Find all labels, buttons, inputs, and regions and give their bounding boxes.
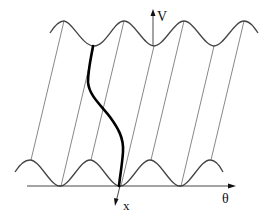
theta-axis-arrowhead-icon	[228, 184, 236, 189]
x-axis-arrowhead-icon	[114, 198, 119, 206]
diagram-canvas	[0, 0, 272, 217]
v-axis-label: V	[157, 10, 167, 24]
thick-trajectory-path	[88, 46, 123, 186]
v-axis-arrowhead-icon	[151, 9, 156, 16]
x-axis-label: x	[123, 199, 130, 212]
theta-axis-label: θ	[222, 192, 229, 206]
top-potential-wave	[50, 21, 258, 46]
